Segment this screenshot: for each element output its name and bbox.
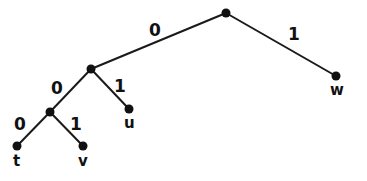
node-w (332, 72, 341, 81)
leaf-label-t: t (13, 152, 20, 170)
binary-tree-diagram: 0 1 0 1 0 1 w u t v (0, 0, 367, 181)
leaf-label-v: v (78, 152, 88, 170)
edge-root-w (226, 13, 336, 76)
node-root (222, 9, 231, 18)
leaf-label-u: u (124, 114, 135, 132)
edge-label-n1-n2: 0 (51, 78, 63, 98)
node-u (125, 105, 134, 114)
edge-label-root-w: 1 (288, 24, 300, 44)
node-v (79, 142, 88, 151)
leaf-label-w: w (330, 81, 344, 99)
node-t (13, 142, 22, 151)
edge-label-n2-t: 0 (14, 114, 26, 134)
edge-label-root-n1: 0 (149, 20, 161, 40)
node-n2 (46, 108, 55, 117)
edge-label-n1-u: 1 (114, 76, 126, 96)
edge-label-n2-v: 1 (70, 114, 82, 134)
node-n1 (87, 65, 96, 74)
